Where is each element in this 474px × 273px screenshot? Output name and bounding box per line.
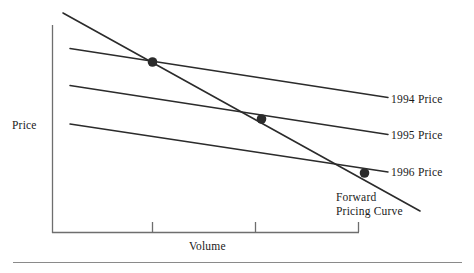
intersection-marker-1994	[148, 57, 158, 67]
series-line-1994-price	[70, 49, 388, 98]
intersection-marker-1996	[360, 168, 370, 178]
bottom-divider-rule	[13, 262, 462, 263]
series-label-1995-price: 1995 Price	[391, 129, 443, 141]
intersection-marker-1995	[257, 114, 267, 124]
series-label-1994-price: 1994 Price	[391, 93, 443, 105]
series-label-1996-price: 1996 Price	[391, 166, 443, 178]
forward-label-line-1: Forward	[336, 190, 403, 204]
series-line-forward-pricing-curve	[63, 13, 420, 211]
forward-label-line-2: Pricing Curve	[336, 204, 403, 218]
x-axis-title: Volume	[189, 240, 226, 252]
series-line-1996-price	[70, 124, 388, 172]
series-label-forward-pricing-curve: Forward Pricing Curve	[336, 190, 403, 218]
y-axis-title: Price	[12, 119, 37, 131]
forward-pricing-curve-figure: Price Volume 1994 Price 1995 Price 1996 …	[0, 0, 474, 273]
series-line-1995-price	[70, 86, 388, 135]
